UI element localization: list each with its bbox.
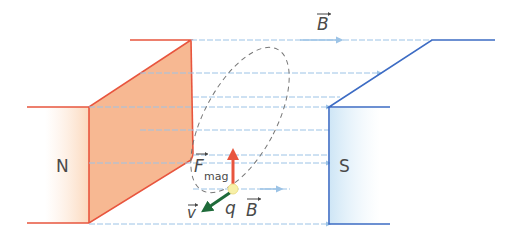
magnetic-force-diagram: N S B F mag v q B — [0, 0, 527, 231]
velocity-v-label: v — [187, 204, 197, 222]
field-b-label-charge: B — [246, 200, 258, 220]
charge-particle — [228, 184, 238, 194]
force-f-label: F — [194, 156, 204, 176]
field-label-bottom: B — [246, 197, 261, 220]
velocity-label: v — [187, 203, 198, 222]
north-pole-magnet — [27, 40, 193, 223]
field-b-label: B — [317, 14, 329, 34]
vector-arrow-icon — [328, 12, 331, 16]
field-label-top: B — [317, 12, 331, 34]
south-pole-fill — [330, 108, 380, 224]
south-pole-magnet — [329, 40, 495, 224]
charge-q-label: q — [225, 198, 236, 218]
force-subscript: mag — [204, 170, 228, 183]
force-label: F mag — [194, 152, 228, 183]
south-pole-label: S — [339, 156, 350, 176]
north-pole-face — [89, 40, 193, 223]
north-pole-label: N — [56, 156, 69, 176]
